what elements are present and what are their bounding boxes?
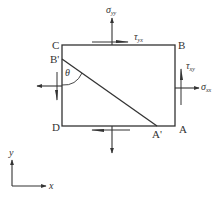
- point-label-a: A: [179, 123, 187, 135]
- stress-element-diagram: C B B' D A A' θ σyy τyx τxy σxx y x: [0, 0, 218, 202]
- point-label-a-prime: A': [152, 128, 162, 140]
- sigma-xx-label: σxx: [201, 81, 212, 93]
- sigma-yy-label: σyy: [106, 4, 117, 16]
- theta-label: θ: [65, 67, 70, 78]
- x-axis-label: x: [48, 180, 54, 191]
- stress-element-box: [62, 45, 175, 126]
- point-label-b: B: [178, 39, 185, 51]
- inclined-plane-line: [62, 59, 157, 126]
- tau-xy-label: τxy: [186, 60, 195, 72]
- tau-yx-label: τyx: [134, 31, 143, 43]
- point-label-c: C: [52, 39, 59, 51]
- y-axis-label: y: [8, 147, 14, 158]
- point-label-d: D: [52, 121, 60, 133]
- point-label-b-prime: B': [50, 53, 59, 65]
